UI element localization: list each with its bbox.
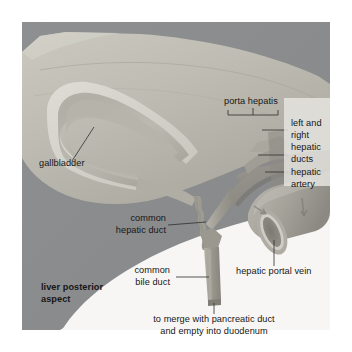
label-liver-posterior-aspect-line2: aspect <box>41 294 70 305</box>
label-hepatic-artery-line1: hepatic <box>291 167 321 178</box>
label-common-hepatic-duct-line2: hepatic duct <box>96 225 166 236</box>
label-common-hepatic-duct-line1: common <box>96 213 166 224</box>
label-common-bile-duct-line1: common <box>104 265 170 276</box>
label-gallbladder: gallbladder <box>39 158 85 169</box>
label-left-right-hepatic-ducts-line1: left and <box>291 118 322 129</box>
label-porta-hepatis: porta hepatis <box>224 96 278 107</box>
label-liver-posterior-aspect-line1: liver posterior <box>41 282 103 293</box>
label-common-bile-duct-line2: bile duct <box>104 277 170 288</box>
caption-line2: and empty into duodenum <box>132 326 296 337</box>
label-left-right-hepatic-ducts-line2: right <box>291 130 309 141</box>
caption-line1: to merge with pancreatic duct <box>132 314 296 325</box>
label-left-right-hepatic-ducts-line4: ducts <box>291 154 313 165</box>
liver-anatomy-figure: porta hepatis left and right hepatic duc… <box>0 0 352 352</box>
label-left-right-hepatic-ducts-line3: hepatic <box>291 142 321 153</box>
label-hepatic-portal-vein: hepatic portal vein <box>236 266 312 277</box>
label-hepatic-artery-line2: artery <box>291 179 315 190</box>
bile-duct-cut-end <box>208 299 221 306</box>
